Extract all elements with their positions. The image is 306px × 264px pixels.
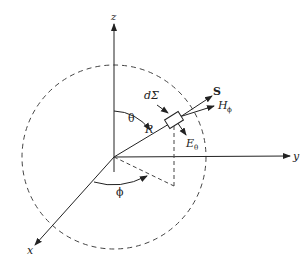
e-field-label: E — [185, 137, 194, 150]
e-field-vector — [177, 122, 186, 135]
projection-radial — [114, 157, 174, 186]
x-label: x — [27, 244, 34, 257]
radius-label: R — [144, 123, 153, 136]
poynting-label: S — [213, 85, 221, 98]
spherical-diagram: z y x θ ϕ R dΣ S H ϕ E θ — [0, 0, 306, 264]
surface-element-label: dΣ — [144, 89, 159, 102]
phi-label: ϕ — [116, 186, 124, 199]
phi-arc — [94, 176, 147, 185]
y-label: y — [292, 150, 300, 163]
surface-element-box — [165, 112, 184, 129]
radius-line — [114, 121, 174, 157]
h-field-subscript: ϕ — [227, 106, 232, 114]
theta-label: θ — [128, 112, 135, 125]
x-axis — [35, 157, 114, 245]
z-label: z — [110, 11, 117, 22]
h-field-vector — [176, 106, 214, 118]
e-field-subscript: θ — [194, 144, 198, 152]
y-axis — [114, 156, 290, 157]
surface-element-pointer — [157, 105, 168, 113]
